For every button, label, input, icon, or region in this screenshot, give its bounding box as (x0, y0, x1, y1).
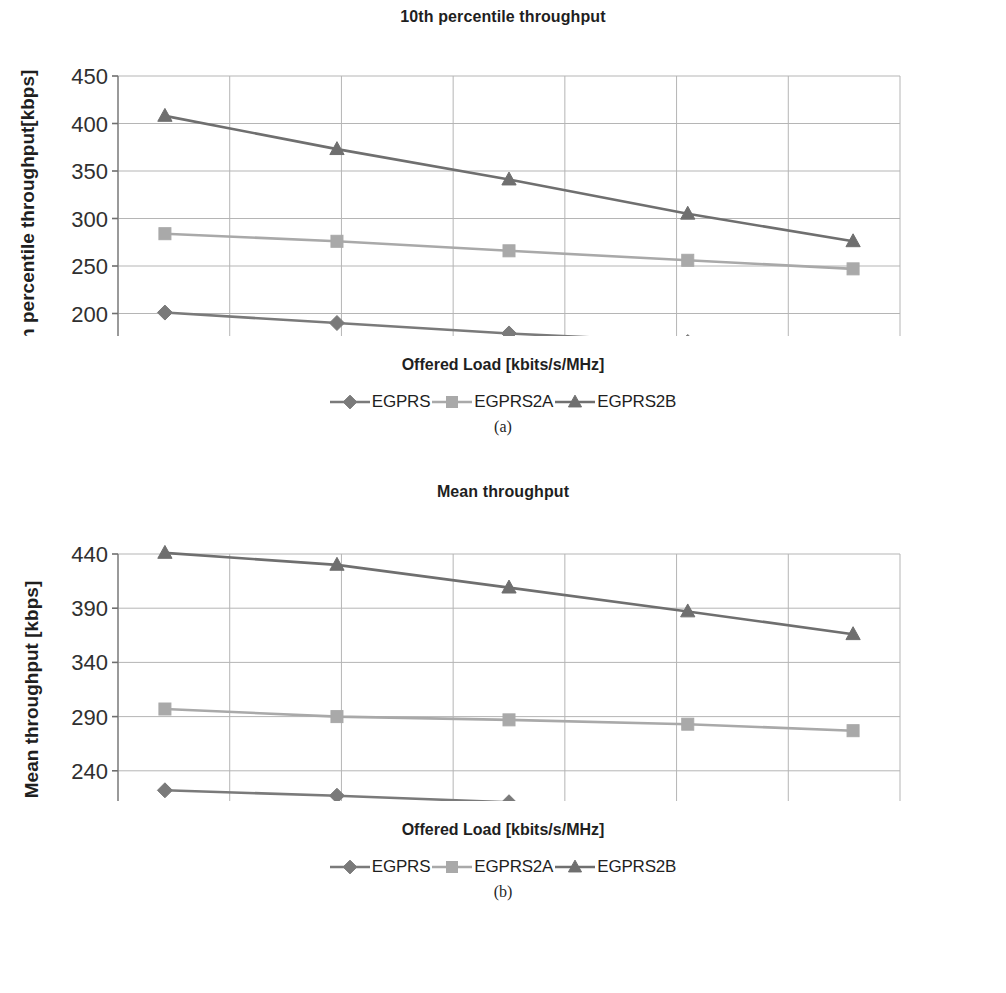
plot-area-b: 1902402903403904403000400050006000700080… (0, 501, 1006, 801)
legend-entry-egprs2a[interactable]: EGPRS2A (431, 857, 554, 877)
y-tick-label: 450 (71, 64, 108, 89)
y-axis-title: Mean throughput [kbps] (21, 581, 42, 798)
plot-background (118, 76, 900, 336)
chart-svg: 1902402903403904403000400050006000700080… (0, 501, 1006, 801)
legend-marker-square-icon (431, 392, 473, 412)
plot-area-a: 1502002503003504004503000400050006000700… (0, 26, 1006, 336)
figure-page: 10th percentile throughput 1502002503003… (0, 0, 1006, 993)
data-point-square-icon (159, 228, 171, 240)
y-tick-label: 200 (71, 302, 108, 327)
legend-b: EGPRSEGPRS2AEGPRS2B (0, 857, 1006, 877)
chart-title-a: 10th percentile throughput (0, 0, 1006, 26)
data-point-square-icon (503, 245, 515, 257)
subcaption-b: (b) (0, 883, 1006, 901)
legend-entry-egprs2b[interactable]: EGPRS2B (554, 392, 677, 412)
legend-label: EGPRS (371, 392, 432, 412)
data-point-square-icon (503, 714, 515, 726)
legend-marker-square-icon (431, 857, 473, 877)
x-axis-title-b: Offered Load [kbits/s/MHz] (0, 821, 1006, 839)
chart-svg: 1502002503003504004503000400050006000700… (0, 26, 1006, 336)
data-point-square-icon (682, 254, 694, 266)
data-point-square-icon (682, 718, 694, 730)
legend-entry-egprs2b[interactable]: EGPRS2B (554, 857, 677, 877)
subcaption-a: (a) (0, 418, 1006, 436)
y-tick-label: 300 (71, 207, 108, 232)
legend-marker-triangle-icon (554, 857, 596, 877)
figure-b: Mean throughput 190240290340390440300040… (0, 475, 1006, 993)
legend-marker-diamond-icon (329, 392, 371, 412)
legend-entry-egprs[interactable]: EGPRS (329, 857, 432, 877)
data-point-square-icon (331, 235, 343, 247)
figure-a: 10th percentile throughput 1502002503003… (0, 0, 1006, 480)
legend-label: EGPRS2B (596, 392, 677, 412)
legend-label: EGPRS2A (473, 392, 554, 412)
data-point-triangle-icon (158, 545, 172, 558)
legend-label: EGPRS2B (596, 857, 677, 877)
legend-marker-triangle-icon (554, 392, 596, 412)
data-point-square-icon (847, 263, 859, 275)
legend-marker-diamond-icon (329, 857, 371, 877)
legend-entry-egprs[interactable]: EGPRS (329, 392, 432, 412)
y-tick-label: 350 (71, 159, 108, 184)
y-tick-label: 390 (71, 596, 108, 621)
chart-title-b: Mean throughput (0, 475, 1006, 501)
legend-a: EGPRSEGPRS2AEGPRS2B (0, 392, 1006, 412)
legend-entry-egprs2a[interactable]: EGPRS2A (431, 392, 554, 412)
data-point-square-icon (847, 725, 859, 737)
y-axis-title: 10th percentile throughput[kbps] (17, 70, 38, 336)
legend-label: EGPRS (371, 857, 432, 877)
y-tick-label: 340 (71, 650, 108, 675)
y-tick-label: 440 (71, 542, 108, 567)
data-point-square-icon (331, 711, 343, 723)
data-point-square-icon (159, 703, 171, 715)
legend-label: EGPRS2A (473, 857, 554, 877)
y-tick-label: 290 (71, 705, 108, 730)
y-tick-label: 400 (71, 112, 108, 137)
x-axis-title-a: Offered Load [kbits/s/MHz] (0, 356, 1006, 374)
y-tick-label: 240 (71, 759, 108, 784)
y-tick-label: 250 (71, 254, 108, 279)
